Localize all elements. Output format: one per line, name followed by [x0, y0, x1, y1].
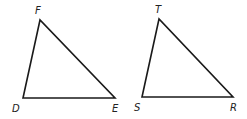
vertex-label-r: R	[230, 102, 237, 113]
triangle-str: T S R	[134, 4, 237, 113]
diagram-canvas: F D E T S R	[0, 0, 247, 119]
vertex-label-t: T	[155, 4, 162, 15]
vertex-label-s: S	[134, 102, 141, 113]
vertex-label-e: E	[112, 103, 119, 114]
vertex-label-d: D	[12, 103, 20, 114]
triangle-str-shape	[142, 19, 233, 97]
vertex-label-f: F	[35, 5, 41, 16]
triangle-def-shape	[23, 20, 115, 98]
triangle-def: F D E	[12, 5, 119, 114]
